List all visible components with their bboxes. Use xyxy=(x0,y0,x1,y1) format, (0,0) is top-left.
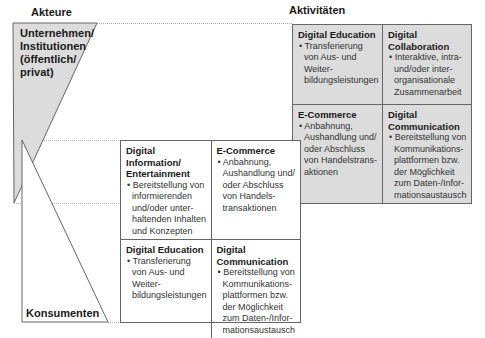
business-cell-digital-education: Digital Education Transferierung von Aus… xyxy=(293,25,382,104)
business-cell-digital-collaboration: Digital Collaboration Interaktive, intra… xyxy=(382,25,471,104)
business-actor-label: Unternehmen/ Institutionen (öffentlich/ … xyxy=(20,27,100,79)
consumer-activities-grid: Digital Information/ Entertainment Berei… xyxy=(120,140,301,323)
business-activities-grid: Digital Education Transferierung von Aus… xyxy=(292,24,472,204)
consumer-cell-e-commerce: E-Commerce Anbahnung, Aushandlung und/ o… xyxy=(211,141,301,239)
business-cell-digital-communication: Digital Communication Bereitstellung von… xyxy=(382,104,471,203)
actors-heading: Akteure xyxy=(31,6,72,18)
consumer-cell-digital-information: Digital Information/ Entertainment Berei… xyxy=(121,141,211,239)
consumer-cell-digital-education: Digital Education Transferierung von Aus… xyxy=(121,239,211,338)
consumer-actor-label: Konsumenten xyxy=(26,307,99,320)
consumer-actor-wedge xyxy=(22,140,108,322)
consumer-cell-digital-communication: Digital Communication Bereitstellung von… xyxy=(211,239,301,338)
activities-heading: Aktivitäten xyxy=(289,4,345,16)
business-cell-e-commerce: E-Commerce Anbahnung, Aushandlung und/ o… xyxy=(293,104,382,203)
